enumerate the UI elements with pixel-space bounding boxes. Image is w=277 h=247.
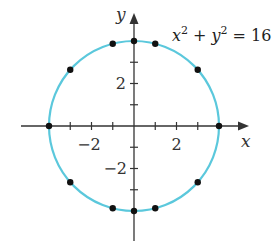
point-marker (110, 205, 116, 211)
y-tick-label-neg2: −2 (103, 159, 127, 178)
point-marker (216, 123, 222, 129)
point-marker (67, 179, 73, 185)
point-marker (131, 208, 137, 214)
x-axis-label: x (241, 131, 251, 151)
circle-diagram: −2 2 2 −2 x y x2+y2= 16 (0, 0, 277, 247)
point-marker (46, 123, 52, 129)
y-axis-label: y (115, 4, 126, 24)
point-marker (195, 67, 201, 73)
x-axis-arrow-icon (238, 122, 249, 131)
point-marker (152, 41, 158, 47)
y-axis-arrow-icon (130, 13, 139, 24)
y-tick-label-2: 2 (116, 74, 126, 93)
point-marker (67, 67, 73, 73)
x-tick-label-2: 2 (171, 135, 181, 154)
point-marker (195, 179, 201, 185)
point-marker (131, 38, 137, 44)
point-marker (152, 205, 158, 211)
point-marker (110, 41, 116, 47)
equation-label: x2+y2= 16 (172, 24, 271, 45)
x-tick-label-neg2: −2 (77, 135, 101, 154)
